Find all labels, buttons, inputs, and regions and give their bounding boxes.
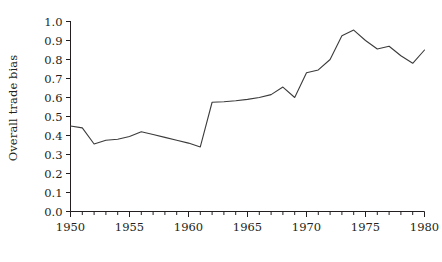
x-axis-tick-label: 1975 <box>351 220 380 234</box>
data-series-line <box>71 30 425 147</box>
y-axis-tick-label: 0.9 <box>44 34 62 48</box>
y-axis-tick-label: 1.0 <box>44 15 62 29</box>
chart-plot: 0.00.10.20.30.40.50.60.70.80.91.01950195… <box>0 0 442 262</box>
x-axis-tick-label: 1980 <box>410 220 439 234</box>
x-axis-tick-label: 1970 <box>292 220 321 234</box>
y-axis-tick-label: 0.0 <box>44 205 62 219</box>
y-axis-tick-label: 0.3 <box>44 148 62 162</box>
y-axis-tick-label: 0.7 <box>44 72 62 86</box>
x-axis-tick-label: 1960 <box>174 220 203 234</box>
chart-figure: Overall trade bias 0.00.10.20.30.40.50.6… <box>0 0 442 262</box>
x-axis-tick-label: 1955 <box>115 220 144 234</box>
x-axis-tick-label: 1950 <box>56 220 85 234</box>
y-axis-tick-label: 0.4 <box>44 129 62 143</box>
y-axis-tick-label: 0.5 <box>44 110 62 124</box>
y-axis-tick-label: 0.6 <box>44 91 62 105</box>
y-axis-tick-label: 0.2 <box>44 167 62 181</box>
y-axis-tick-label: 0.1 <box>44 186 62 200</box>
y-axis-tick-label: 0.8 <box>44 53 62 67</box>
x-axis-tick-label: 1965 <box>233 220 262 234</box>
